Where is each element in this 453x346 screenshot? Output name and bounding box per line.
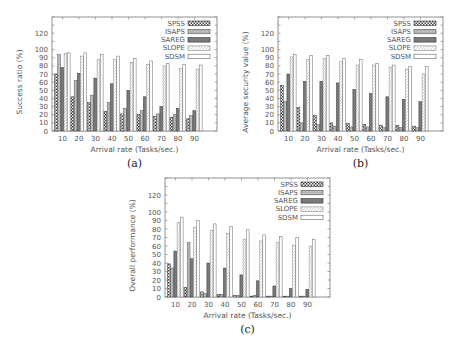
bar-spss [168,264,171,297]
bar-sareg [190,259,193,297]
bar-sareg [419,102,422,131]
legend-swatch-sdsm [414,54,436,59]
y-tick-label: 80 [265,62,274,70]
bar-slope [227,233,230,297]
x-axis-label: Arrival rate (Tasks/sec.) [317,145,405,154]
bar-spss [347,124,350,131]
bar-sdsm [343,59,346,131]
legend-swatch-sdsm [301,215,323,220]
x-tick-label: 30 [317,135,326,143]
y-tick-label: 70 [39,71,48,79]
x-tick-label: 50 [237,301,246,309]
chart-c: 0102030405060708090100120102030405060708… [128,178,330,336]
bar-isaps [366,127,369,131]
legend-swatch-slope [414,46,436,51]
bar-sdsm [197,221,200,298]
bar-isaps [58,54,61,131]
bar-slope [81,56,84,131]
bar-slope [340,62,343,131]
bar-isaps [333,126,336,131]
bar-spss [170,117,173,131]
y-tick-label: 0 [270,128,274,136]
legend-label-isaps: ISAPS [165,28,186,36]
legend-label-isaps: ISAPS [278,189,299,197]
bar-sareg [61,67,64,131]
bar-sareg [306,289,309,297]
legend-swatch-spss [188,21,210,26]
y-tick-label: 60 [265,79,274,87]
bar-spss [121,114,124,131]
bar-spss [88,103,91,132]
bar-sdsm [296,238,299,298]
legend-label-sdsm: SDSM [165,53,185,61]
bar-isaps [286,296,289,297]
legend-label-spss: SPSS [393,20,411,28]
x-tick-label: 50 [350,135,359,143]
bar-sdsm [310,55,313,131]
bar-sareg [143,97,146,131]
bar-sareg [160,107,163,131]
bar-spss [314,116,317,131]
bar-spss [55,74,58,131]
y-axis-label: Success ratio (%) [15,49,24,114]
legend-swatch-spss [414,21,436,26]
bar-spss [281,85,284,131]
bar-sareg [369,94,372,131]
bar-sdsm [246,230,249,297]
bar-sdsm [392,65,395,131]
bar-slope [260,241,263,297]
bar-spss [104,111,107,131]
bar-slope [180,68,183,131]
bar-sareg [176,108,179,131]
bar-isaps [171,268,174,297]
legend-label-sareg: SAREG [387,36,411,44]
x-axis-label: Arrival rate (Tasks/sec.) [91,145,179,154]
bar-slope [163,66,166,131]
bar-slope [130,63,133,131]
bar-spss [71,97,74,131]
bar-slope [373,65,376,131]
x-tick-label: 10 [284,135,293,143]
legend-label-spss: SPSS [167,20,185,28]
legend-label-sdsm: SDSM [391,53,411,61]
x-tick-label: 70 [157,135,166,143]
bar-sareg [94,78,97,131]
bar-spss [187,119,190,131]
bar-isaps [284,102,287,131]
bar-sareg [386,97,389,131]
bar-sareg [127,90,130,131]
bar-sdsm [180,217,183,297]
legend-label-sdsm: SDSM [278,214,298,222]
bar-sareg [174,251,177,297]
legend-swatch-sdsm [188,54,210,59]
x-tick-label: 40 [334,135,343,143]
legend-label-slope: SLOPE [163,44,185,52]
y-tick-label: 90 [152,217,161,225]
bar-isaps [220,294,223,297]
y-tick-label: 0 [44,128,48,136]
bar-slope [194,227,197,297]
legend-swatch-isaps [414,29,436,34]
y-tick-label: 50 [152,251,161,259]
x-tick-label: 40 [221,301,230,309]
bar-slope [309,246,312,297]
y-tick-label: 80 [39,62,48,70]
bar-isaps [124,108,127,131]
bar-sdsm [166,63,169,131]
bar-spss [413,126,416,131]
legend-label-slope: SLOPE [389,44,411,52]
bar-sdsm [326,55,329,131]
bar-slope [389,67,392,131]
y-tick-label: 60 [39,79,48,87]
y-tick-label: 10 [39,119,48,127]
bar-sareg [336,83,339,131]
legend-swatch-sareg [414,38,436,43]
bar-spss [363,124,366,131]
x-tick-label: 60 [254,301,263,309]
bar-isaps [173,115,176,131]
y-tick-label: 120 [35,30,48,38]
bar-spss [234,295,237,297]
bar-sdsm [117,56,120,131]
x-tick-label: 20 [75,135,84,143]
bar-slope [290,57,293,131]
